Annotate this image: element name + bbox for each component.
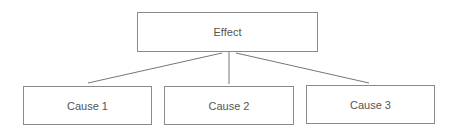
cause-label: Cause 1 [67, 100, 108, 112]
cause-box-3: Cause 3 [306, 85, 435, 124]
connector-effect-cause1 [88, 53, 222, 83]
cause-label: Cause 3 [350, 99, 391, 111]
cause-box-2: Cause 2 [164, 86, 294, 125]
effect-box: Effect [137, 12, 318, 52]
cause-label: Cause 2 [209, 100, 250, 112]
effect-label: Effect [214, 26, 242, 38]
cause-box-1: Cause 1 [23, 86, 152, 125]
connector-effect-cause3 [236, 53, 369, 83]
